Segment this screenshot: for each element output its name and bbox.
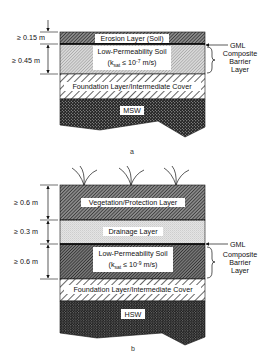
waste-label: HSW (125, 310, 142, 319)
dimension-label-erosion: ≥ 0.15 m (17, 33, 45, 42)
erosion-layer-label: Erosion Layer (Soil) (100, 34, 163, 43)
dimension-markers (40, 185, 58, 279)
low-permeability-label: Low-Permeability Soil (98, 249, 168, 258)
barrier-label-line3: Layer (231, 266, 250, 275)
barrier-label-line3: Layer (231, 65, 250, 74)
dimension-label-low-permeability: ≥ 0.6 m (14, 257, 38, 266)
gml-label: GML (230, 240, 246, 249)
foundation-layer-label: Foundation Layer/Intermediate Cover (73, 285, 193, 294)
caption-a: a (130, 148, 134, 155)
vegetation-icon (72, 166, 189, 185)
foundation-layer-label: Foundation Layer/Intermediate Cover (72, 82, 192, 91)
waste-label: MSW (123, 106, 141, 115)
brace-icon (207, 247, 215, 278)
dimension-label-drainage: ≥ 0.3 m (14, 227, 38, 236)
brace-icon (207, 47, 215, 73)
dimension-markers (40, 20, 58, 74)
caption-b: b (131, 345, 135, 352)
dimension-label-vegetation: ≥ 0.6 m (14, 198, 38, 207)
vegetation-layer-label: Vegetation/Protection Layer (89, 198, 178, 207)
dimension-label-low-permeability: ≥ 0.45 m (12, 56, 40, 65)
low-permeability-label: Low-Permeability Soil (97, 47, 167, 56)
diagram-a: Erosion Layer (Soil) Low-Permeability So… (12, 20, 257, 155)
landfill-cover-diagrams: Erosion Layer (Soil) Low-Permeability So… (0, 0, 270, 357)
drainage-layer-label: Drainage Layer (108, 227, 158, 236)
msw-layer (60, 99, 205, 137)
hsw-layer (60, 301, 205, 345)
diagram-b: Vegetation/Protection Layer Drainage Lay… (14, 166, 257, 352)
